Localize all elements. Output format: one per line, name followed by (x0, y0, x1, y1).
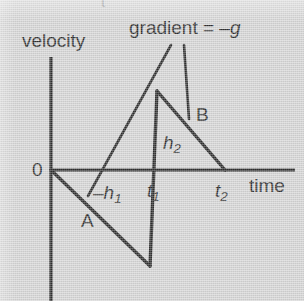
x-axis-label: time (249, 176, 285, 195)
gradient-annotation-symbol: g (230, 17, 241, 38)
height-1-sign: – (93, 182, 104, 203)
origin-label: 0 (32, 160, 43, 179)
gradient-leader-line (88, 45, 171, 196)
time-2-subscript: 2 (220, 189, 227, 204)
height-2-symbol: h (163, 132, 174, 153)
height-1-subscript: 1 (114, 191, 121, 206)
gradient-annotation-text: gradient = – (129, 17, 230, 38)
height-1-label: –h1 (93, 183, 122, 205)
time-1-subscript: 1 (152, 189, 159, 204)
height-2-label: h2 (163, 133, 181, 155)
curve-bounce-reversal (150, 91, 157, 266)
velocity-time-diagram: t velocity time 0 gradient = –g A B –h1 … (0, 0, 304, 301)
y-axis-label: velocity (22, 31, 85, 50)
segment-b-label: B (196, 105, 209, 124)
height-2-subscript: 2 (174, 141, 181, 156)
segment-a-label: A (81, 211, 94, 230)
curve-segment-b (157, 91, 225, 170)
gradient-pointer-line (184, 45, 189, 119)
gradient-annotation: gradient = –g (129, 18, 240, 37)
height-1-symbol: h (104, 182, 115, 203)
time-2-label: t2 (215, 181, 228, 203)
time-1-label: t1 (147, 181, 160, 203)
